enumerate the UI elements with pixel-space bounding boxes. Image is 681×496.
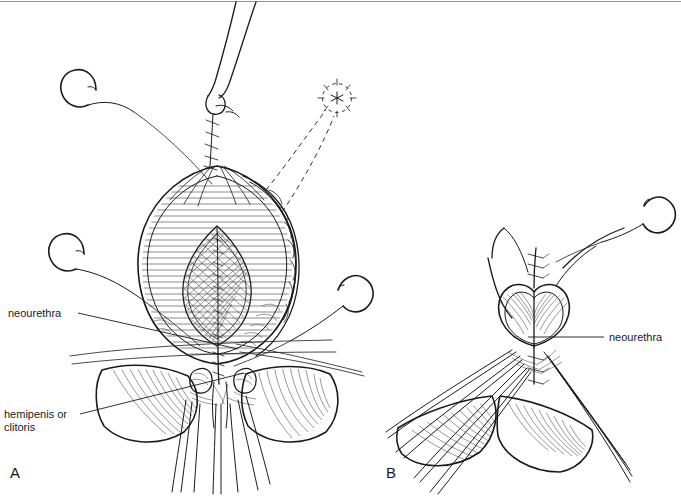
- label-neourethra-right-text: neourethra: [609, 331, 663, 343]
- panel-a: [49, 2, 373, 494]
- heart-left-hatching: [498, 290, 534, 334]
- midline-suture-upper-b: [528, 248, 549, 288]
- panel-b: [386, 197, 675, 494]
- label-hemipenis-line1: hemipenis or: [4, 408, 67, 420]
- panel-label-b: B: [386, 464, 396, 481]
- right-fold-hatching-b: [506, 398, 592, 456]
- illustration-canvas: neourethra hemipenis or clitoris neouret…: [0, 0, 681, 496]
- needle-mid-left: [49, 234, 200, 346]
- left-fold-hatching: [112, 365, 196, 434]
- neourethral-plate: [174, 218, 262, 352]
- label-neourethra-left-text: neourethra: [8, 307, 62, 319]
- left-fold-hatching-b: [404, 396, 498, 464]
- label-neourethra-left: neourethra: [8, 307, 238, 349]
- stoma-marker: [318, 79, 356, 117]
- everted-tissue-oval: [128, 166, 304, 384]
- midline-suture-lower-b: [528, 348, 549, 384]
- neourethral-tube: [206, 2, 256, 117]
- annotation-layer: neourethra hemipenis or clitoris neouret…: [4, 307, 663, 481]
- labial-folds-a: [96, 365, 338, 442]
- needle-upper-right-b: [556, 197, 675, 262]
- label-hemipenis-line2: clitoris: [4, 421, 36, 433]
- panel-label-a: A: [10, 464, 20, 481]
- label-neourethra-right: neourethra: [528, 331, 663, 343]
- hemipenis-clitoral-bodies: [190, 368, 256, 405]
- heart-right-hatching: [534, 290, 570, 334]
- introitus-heart-b: [498, 285, 570, 348]
- label-hemipenis-or-clitoris: hemipenis or clitoris: [4, 373, 244, 433]
- leader-hemipenis: [80, 373, 244, 414]
- right-fold-hatching: [258, 365, 330, 438]
- midline-suture-running: [204, 114, 219, 170]
- needle-upper-left: [61, 70, 212, 184]
- surgical-figure: neourethra hemipenis or clitoris neouret…: [0, 0, 681, 496]
- perineal-shading-b: [508, 350, 562, 374]
- oval-hatching: [128, 186, 304, 354]
- traction-sutures-b: [386, 350, 632, 494]
- dashed-projection-lines: [266, 110, 334, 212]
- labial-folds-b: [397, 396, 593, 472]
